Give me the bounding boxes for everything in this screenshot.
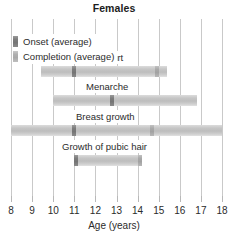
gridline-18 [222,19,223,196]
puberty-timeline-chart: Females Height spurtMenarcheBreast growt… [0,0,228,238]
tick-label-13: 13 [111,204,122,217]
completion-marker [155,66,159,77]
tick-label-10: 10 [48,204,59,217]
legend-item-onset: Onset (average) [13,34,117,49]
completion-marker [138,155,142,166]
tick-label-18: 18 [216,204,227,217]
bar-menarche [53,95,196,106]
legend-label-completion: Completion (average) [23,51,114,62]
x-axis-title: Age (years) [0,220,228,231]
chart-legend: Onset (average) Completion (average) [13,34,117,64]
tick-mark-17 [201,196,202,202]
onset-marker [74,155,78,166]
legend-label-onset: Onset (average) [23,36,92,47]
tick-label-12: 12 [90,204,101,217]
tick-mark-10 [53,196,54,202]
tick-mark-12 [95,196,96,202]
tick-mark-15 [159,196,160,202]
tick-mark-8 [11,196,12,202]
tick-label-11: 11 [69,204,79,217]
bar-label-growth-of-pubic-hair: Growth of pubic hair [59,140,150,153]
gridline-8 [11,19,12,196]
chart-title: Females [0,2,228,14]
tick-label-16: 16 [174,204,185,217]
tick-mark-18 [222,196,223,202]
onset-marker [110,95,114,106]
x-axis-ticks [11,196,222,203]
tick-mark-11 [74,196,75,202]
x-axis-tick-labels: 89101112131415161718 [11,204,222,218]
tick-mark-13 [117,196,118,202]
tick-label-17: 17 [195,204,206,217]
tick-label-15: 15 [153,204,164,217]
bar-breast-growth [11,125,222,136]
bar-growth-of-pubic-hair [74,155,142,166]
completion-marker [150,125,154,136]
gridline-15 [159,19,160,196]
tick-mark-16 [180,196,181,202]
bar-height-spurt [41,66,168,77]
tick-label-8: 8 [8,204,14,217]
tick-mark-9 [32,196,33,202]
gridline-17 [201,19,202,196]
gridline-14 [138,19,139,196]
tick-label-14: 14 [132,204,143,217]
legend-swatch-onset-icon [13,36,18,47]
legend-item-completion: Completion (average) [13,49,117,64]
legend-swatch-completion-icon [13,51,18,62]
tick-mark-14 [138,196,139,202]
tick-label-9: 9 [29,204,35,217]
onset-marker [72,125,76,136]
onset-marker [72,66,76,77]
gridline-16 [180,19,181,196]
bar-label-breast-growth: Breast growth [73,110,138,123]
bar-label-menarche: Menarche [83,80,131,93]
